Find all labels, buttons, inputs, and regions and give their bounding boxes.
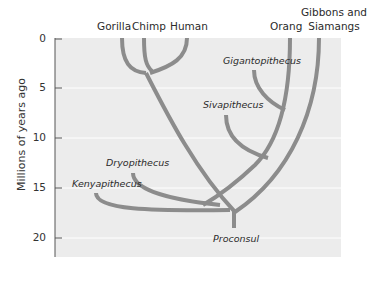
label-gibbons-line1: Gibbons and xyxy=(298,6,370,18)
y-tick-20: 20 xyxy=(24,231,46,243)
label-dryopithecus: Dryopithecus xyxy=(106,157,169,168)
label-proconsul: Proconsul xyxy=(213,233,259,244)
label-gigantopithecus: Gigantopithecus xyxy=(223,55,301,66)
label-chimp: Chimp xyxy=(132,20,166,32)
label-human: Human xyxy=(170,20,208,32)
label-kenyapithecus: Kenyapithecus xyxy=(72,178,142,189)
plot-background xyxy=(55,38,341,257)
label-sivapithecus: Sivapithecus xyxy=(203,99,264,110)
phylogeny-diagram: Gorilla Chimp Human Orang Gibbons and Si… xyxy=(0,0,370,286)
y-tick-0: 0 xyxy=(24,32,46,44)
label-gorilla: Gorilla xyxy=(97,20,131,32)
label-gibbons-line2: Siamangs xyxy=(298,20,370,32)
y-axis-label: Millions of years ago xyxy=(15,70,28,200)
tree-plot xyxy=(0,0,370,286)
